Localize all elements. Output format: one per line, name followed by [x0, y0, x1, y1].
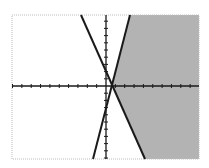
inequality-graph: [0, 0, 209, 168]
